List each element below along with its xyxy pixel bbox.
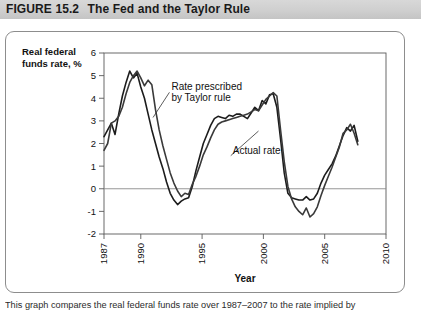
y-axis-tick-label: 1 <box>91 161 96 172</box>
taylor-rule-line-chart: -2-10123456198719901995200020052010YearR… <box>6 32 406 294</box>
figure-title: The Fed and the Taylor Rule <box>88 2 251 16</box>
x-axis-tick-label: 2005 <box>319 243 330 264</box>
x-axis-title: Year <box>234 273 255 284</box>
figure-caption: This graph compares the real federal fun… <box>5 300 415 311</box>
y-axis-tick-label: 0 <box>91 183 96 194</box>
chart-plot-area: -2-10123456198719901995200020052010YearR… <box>6 32 406 294</box>
y-axis-tick-label: 2 <box>91 138 96 149</box>
x-axis-tick-label: 2010 <box>380 243 391 264</box>
x-axis-tick-label: 1995 <box>196 243 207 264</box>
taylor-rule-annotation-line2: by Taylor rule <box>171 92 231 103</box>
x-axis-tick-label: 1987 <box>98 243 109 264</box>
figure-header-label: FIGURE 15.2 The Fed and the Taylor Rule <box>6 2 250 16</box>
figure-card: Real federal funds rate, % -2-1012345619… <box>5 31 405 293</box>
y-axis-tick-label: 5 <box>91 70 96 81</box>
y-axis-tick-label: -1 <box>88 206 96 217</box>
x-axis-tick-label: 2000 <box>258 243 269 264</box>
y-axis-tick-label: 6 <box>91 47 96 58</box>
y-axis-tick-label: 4 <box>91 93 96 104</box>
figure-header-bar: FIGURE 15.2 The Fed and the Taylor Rule <box>0 0 421 19</box>
figure-word: FIGURE <box>6 2 52 16</box>
y-axis-tick-label: 3 <box>91 115 96 126</box>
actual-rate-annotation: Actual rate <box>233 145 281 156</box>
taylor-rule-annotation: Rate prescribed <box>171 81 242 92</box>
y-axis-tick-label: -2 <box>88 228 96 239</box>
x-axis-tick-label: 1990 <box>135 243 146 264</box>
figure-number: 15.2 <box>55 2 79 16</box>
